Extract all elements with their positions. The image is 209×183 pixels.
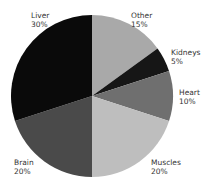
label-kidneys: Kidneys5% bbox=[171, 48, 200, 66]
label-muscles: Muscles20% bbox=[151, 158, 181, 176]
label-liver: Liver30% bbox=[31, 11, 49, 29]
label-other: Other15% bbox=[131, 11, 152, 29]
label-brain: Brain20% bbox=[14, 158, 34, 176]
label-heart: Heart10% bbox=[179, 88, 200, 106]
